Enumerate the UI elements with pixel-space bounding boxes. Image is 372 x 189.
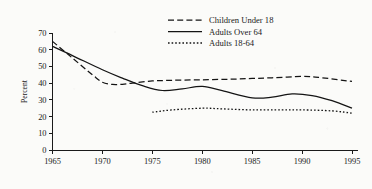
y-tick-label: 70 [38,29,46,38]
legend-label: Children Under 18 [209,15,273,25]
legend-label: Adults 18-64 [209,38,255,48]
x-tick-label: 1995 [344,157,361,166]
chart-canvas: 0102030405060701965197019751980198519901… [0,0,372,189]
y-axis-title: Percent [20,79,29,103]
line-chart: 0102030405060701965197019751980198519901… [0,0,372,189]
x-tick-label: 1980 [194,157,211,166]
series-line-dashed [53,41,353,84]
x-tick-label: 1975 [144,157,161,166]
x-tick-label: 1970 [94,157,111,166]
y-tick-label: 40 [38,79,46,88]
x-tick-label: 1990 [294,157,311,166]
x-tick-label: 1985 [244,157,261,166]
series-line-solid [53,46,353,108]
y-tick-label: 10 [38,129,46,138]
x-tick-label: 1965 [44,157,61,166]
y-tick-label: 20 [38,113,46,122]
series-line-dotted [152,108,352,113]
y-tick-label: 60 [38,46,46,55]
legend-label: Adults Over 64 [209,27,263,37]
y-tick-label: 0 [42,146,46,155]
axis-spines [53,33,359,150]
y-tick-label: 50 [38,62,46,71]
y-tick-label: 30 [38,96,46,105]
